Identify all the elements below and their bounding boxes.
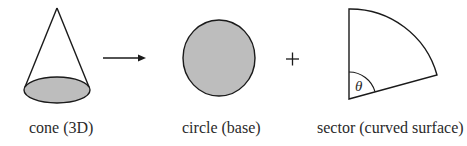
- sector-label: sector (curved surface): [317, 119, 464, 137]
- arrow-icon: [103, 55, 146, 62]
- angle-theta-label: θ: [355, 78, 363, 94]
- circle-shape: [183, 20, 255, 96]
- sector-shape: θ: [349, 9, 437, 99]
- circle-label: circle (base): [182, 119, 261, 137]
- cone-shape: [24, 8, 90, 103]
- plus-icon: [286, 53, 299, 66]
- cone-label: cone (3D): [29, 119, 93, 137]
